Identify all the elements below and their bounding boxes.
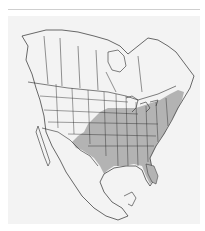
species-range-area [72,90,184,184]
top-rule [8,9,200,10]
north-america-map [8,16,200,224]
florida-outline [146,164,158,184]
baja-outline [36,126,50,166]
hudson-bay [108,50,126,72]
us-canada-border [28,82,176,100]
province-borders [44,36,142,92]
range-map [8,16,200,224]
yucatan-outline [124,192,136,206]
